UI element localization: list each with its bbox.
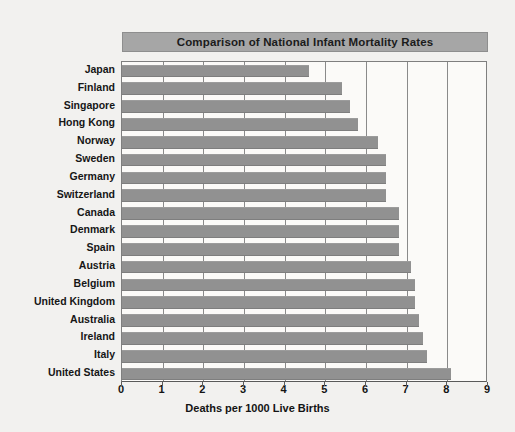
bar [122, 243, 399, 256]
bar [122, 136, 378, 149]
category-label: Sweden [0, 152, 115, 164]
x-tick-mark [121, 382, 122, 386]
chart-title: Comparison of National Infant Mortality … [177, 36, 434, 48]
bar-row [122, 169, 486, 187]
x-tick-mark [487, 382, 488, 386]
category-label: Hong Kong [0, 116, 115, 128]
bar-row [122, 187, 486, 205]
bar [122, 368, 451, 381]
category-label: Italy [0, 348, 115, 360]
bar-row [122, 62, 486, 80]
bar [122, 350, 427, 363]
bar [122, 207, 399, 220]
category-label: Germany [0, 170, 115, 182]
category-label: Finland [0, 81, 115, 93]
x-tick-mark [243, 382, 244, 386]
category-label: Australia [0, 313, 115, 325]
x-tick-mark [284, 382, 285, 386]
category-label: Japan [0, 63, 115, 75]
bar [122, 225, 399, 238]
bar-row [122, 98, 486, 116]
bar [122, 118, 358, 131]
category-label: Spain [0, 241, 115, 253]
bar-row [122, 205, 486, 223]
bar [122, 65, 309, 78]
category-label: Switzerland [0, 188, 115, 200]
x-tick-mark [446, 382, 447, 386]
category-axis-labels: JapanFinlandSingaporeHong KongNorwaySwed… [0, 61, 115, 382]
bar [122, 100, 350, 113]
bar [122, 189, 386, 202]
category-label: Belgium [0, 277, 115, 289]
category-label: Denmark [0, 223, 115, 235]
bar-row [122, 347, 486, 365]
bar-row [122, 151, 486, 169]
bar-row [122, 312, 486, 330]
bar-row [122, 330, 486, 348]
category-label: Norway [0, 134, 115, 146]
bar-row [122, 223, 486, 241]
bar-row [122, 294, 486, 312]
x-tick-mark [162, 382, 163, 386]
category-label: Canada [0, 206, 115, 218]
category-label: Singapore [0, 99, 115, 111]
bar [122, 172, 386, 185]
x-tick-mark [202, 382, 203, 386]
plot-area [121, 61, 487, 382]
category-label: Ireland [0, 330, 115, 342]
bar-row [122, 80, 486, 98]
category-label: Austria [0, 259, 115, 271]
chart-title-banner: Comparison of National Infant Mortality … [122, 32, 488, 52]
bar [122, 82, 342, 95]
x-tick-mark [324, 382, 325, 386]
x-axis-title: Deaths per 1000 Live Births [0, 402, 515, 414]
bar [122, 296, 415, 309]
bars-container [122, 62, 486, 381]
bar [122, 261, 411, 274]
infant-mortality-bar-chart: Comparison of National Infant Mortality … [0, 0, 515, 432]
bar-row [122, 240, 486, 258]
bar-row [122, 258, 486, 276]
bar [122, 314, 419, 327]
category-label: United States [0, 366, 115, 378]
bar-row [122, 133, 486, 151]
x-tick-mark [365, 382, 366, 386]
bar-row [122, 365, 486, 383]
bar [122, 279, 415, 292]
category-label: United Kingdom [0, 295, 115, 307]
x-axis-tick-labels: 0123456789 [0, 383, 515, 399]
bar-row [122, 116, 486, 134]
bar [122, 154, 386, 167]
bar-row [122, 276, 486, 294]
bar [122, 332, 423, 345]
x-tick-mark [406, 382, 407, 386]
